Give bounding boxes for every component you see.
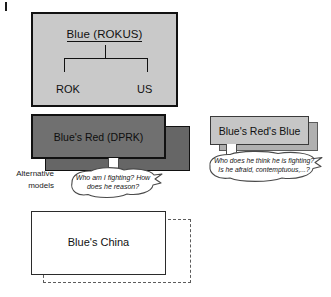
bracket-stem — [105, 45, 106, 59]
thought-bubble-reds-blue-line1: Who does he think he is fighting? — [210, 156, 318, 165]
box-blues-red-dprk: Blue's Red (DPRK) — [31, 114, 166, 159]
leaf-label-us: US — [137, 83, 152, 95]
page-margin-tick-icon — [5, 2, 7, 11]
box-blues-reds-blue: Blue's Red's Blue — [210, 116, 309, 145]
box-blue-rokus: Blue (ROKUS) ROK US — [31, 12, 178, 107]
box-blues-china: Blue's China — [31, 211, 166, 275]
thought-bubble-dprk-text: Who am I fighting? How does he reason? — [58, 173, 168, 192]
box-blues-red-dprk-label: Blue's Red (DPRK) — [33, 131, 164, 143]
thought-bubble-dprk-line1: Who am I fighting? How — [70, 173, 156, 182]
box-blues-china-label: Blue's China — [32, 236, 165, 248]
thought-bubble-dprk-line2: does he reason? — [70, 182, 156, 191]
box-blue-rokus-label: Blue (ROKUS) — [33, 28, 176, 40]
diagram-canvas: Blue (ROKUS) ROK US Blue's Red (DPRK) Wh… — [0, 0, 331, 297]
bracket-leg-left — [64, 58, 65, 72]
thought-bubble-reds-blue-line2: Is he afraid, contemptuous,...? — [210, 165, 318, 174]
bracket-leg-right — [147, 58, 148, 72]
thought-bubble-dprk: Who am I fighting? How does he reason? — [58, 166, 168, 199]
thought-bubble-reds-blue-text: Who does he think he is fighting? Is he … — [200, 156, 328, 174]
leaf-label-rok: ROK — [56, 83, 80, 95]
annotation-alternative-models-line1: Alternative — [2, 168, 54, 180]
bracket-crossbar — [64, 58, 148, 59]
annotation-alternative-models: Alternative models — [2, 168, 54, 193]
thought-bubble-reds-blue: Who does he think he is fighting? Is he … — [200, 150, 328, 183]
box-blues-reds-blue-label: Blue's Red's Blue — [211, 125, 308, 137]
annotation-alternative-models-line2: models — [2, 180, 54, 192]
